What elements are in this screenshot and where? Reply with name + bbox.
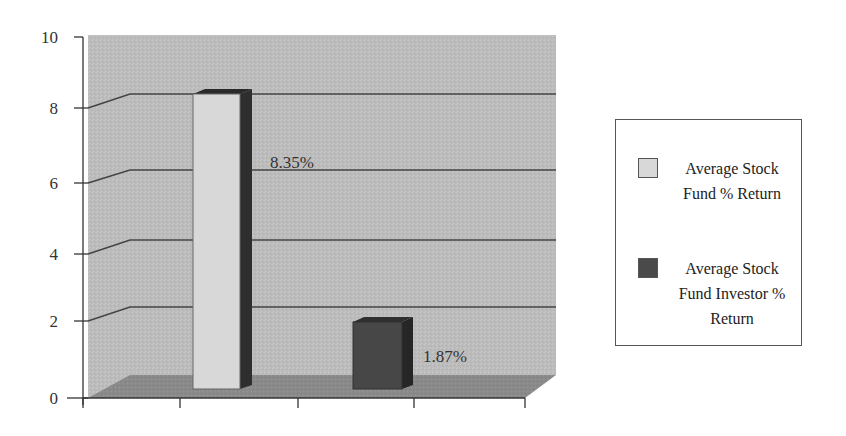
bar1-value-label: 8.35% <box>270 153 314 172</box>
y-tick-4: 4 <box>50 245 59 264</box>
legend-item-investor-return: Average Stock Fund Investor % Return <box>638 256 790 331</box>
legend-swatch-dark <box>638 258 658 278</box>
legend-label: Average Stock Fund Investor % Return <box>674 256 790 331</box>
y-axis <box>67 37 88 405</box>
y-tick-6: 6 <box>50 174 59 193</box>
y-tick-10: 10 <box>41 28 58 47</box>
bar-average-stock-fund-investor-return <box>353 317 413 389</box>
legend-item-stock-fund-return: Average Stock Fund % Return <box>638 156 790 206</box>
legend-swatch-light <box>638 158 658 178</box>
y-tick-8: 8 <box>50 99 59 118</box>
y-tick-0: 0 <box>50 389 59 408</box>
y-tick-labels: 10 8 6 4 2 0 <box>41 28 59 408</box>
y-tick-2: 2 <box>50 312 59 331</box>
x-axis <box>83 398 525 408</box>
bar-average-stock-fund-return <box>193 89 252 389</box>
legend-label: Average Stock Fund % Return <box>674 156 790 206</box>
bar2-value-label: 1.87% <box>423 347 467 366</box>
chart-wall <box>88 35 556 398</box>
chart-floor <box>88 375 556 398</box>
chart-legend: Average Stock Fund % Return Average Stoc… <box>615 119 802 346</box>
